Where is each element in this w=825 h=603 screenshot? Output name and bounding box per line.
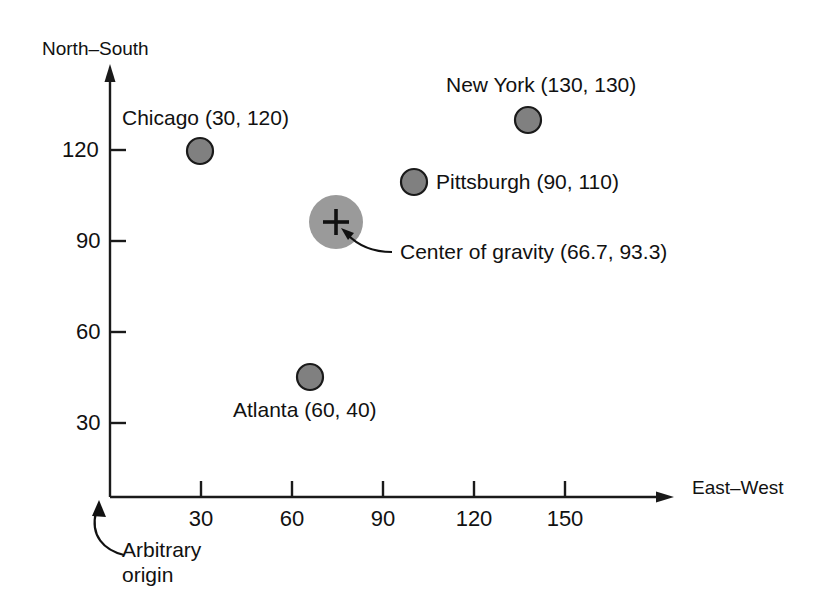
y-tick-label-90: 90 — [76, 228, 100, 254]
marker-chicago — [187, 138, 213, 164]
y-tick-label-30: 30 — [76, 410, 100, 436]
marker-new-york — [515, 107, 541, 133]
x-tick-label-150: 150 — [547, 506, 584, 532]
point-label-pittsburgh: Pittsburgh (90, 110) — [436, 170, 619, 195]
annotation-arbitrary-origin-line1: Arbitrary — [122, 538, 201, 563]
point-label-new-york: New York (130, 130) — [446, 73, 636, 98]
scatter-plot-figure: North–South East–West 120 90 60 30 30 60… — [0, 0, 825, 603]
y-tick-label-120: 120 — [62, 137, 99, 163]
x-axis-title: East–West — [692, 477, 784, 499]
y-tick-label-60: 60 — [76, 319, 100, 345]
x-tick-label-120: 120 — [456, 506, 493, 532]
annotation-arbitrary-origin-line2: origin — [122, 563, 201, 588]
annotation-arbitrary-origin: Arbitrary origin — [122, 538, 201, 588]
point-label-center-of-gravity: Center of gravity (66.7, 93.3) — [400, 240, 667, 265]
x-tick-label-90: 90 — [371, 506, 395, 532]
x-axis — [110, 481, 674, 503]
point-label-atlanta: Atlanta (60, 40) — [233, 398, 377, 423]
marker-atlanta — [297, 364, 323, 390]
x-tick-label-60: 60 — [280, 506, 304, 532]
point-label-chicago: Chicago (30, 120) — [122, 106, 289, 131]
marker-pittsburgh — [401, 169, 427, 195]
x-tick-label-30: 30 — [189, 506, 213, 532]
arbitrary-origin-leader — [92, 500, 124, 555]
y-axis-title: North–South — [42, 38, 149, 60]
plot-canvas — [0, 0, 825, 603]
